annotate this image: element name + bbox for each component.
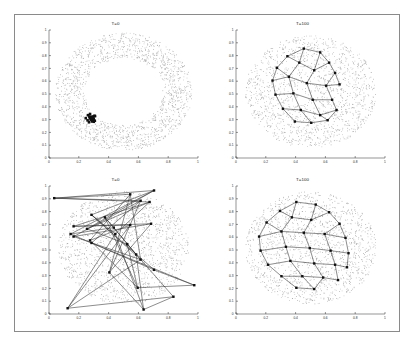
y-tick-label: 0.2 [229,131,234,135]
plot-area: 00.20.40.60.8100.10.20.30.40.50.60.70.80… [210,19,395,174]
x-tick-label: 0.8 [166,316,171,320]
y-tick-label: 0.2 [42,131,47,135]
axes: 00.20.40.60.8100.10.20.30.40.50.60.70.80… [42,28,199,164]
y-tick-label: 0.6 [229,79,234,83]
y-tick-label: 1 [45,28,47,32]
panel-bottom-left: T=0 00.20.40.60.8100.10.20.30.40.50.60.7… [23,175,208,330]
y-tick-label: 0.9 [229,197,234,201]
y-tick-label: 0.9 [42,41,47,45]
x-tick-label: 0.8 [353,160,358,164]
x-tick-label: 0.4 [293,316,298,320]
x-tick-label: 1 [197,316,199,320]
panel-bottom-right: T=100 00.20.40.60.8100.10.20.30.40.50.60… [210,175,395,330]
x-tick-label: 0.8 [166,160,171,164]
y-tick-label: 0.1 [229,299,234,303]
plot-area: 00.20.40.60.8100.10.20.30.40.50.60.70.80… [23,175,208,330]
y-tick-label: 0.7 [42,223,47,227]
x-tick-label: 0 [235,316,237,320]
y-tick-label: 0.3 [42,118,47,122]
y-tick-label: 1 [45,184,47,188]
y-tick-label: 0.4 [229,261,234,265]
x-tick-label: 0.2 [264,316,269,320]
y-tick-label: 0.1 [42,299,47,303]
x-tick-label: 0 [48,160,50,164]
y-tick-label: 0.8 [42,210,47,214]
panel-top-left: T=0 00.20.40.60.8100.10.20.30.40.50.60.7… [23,19,208,174]
y-tick-label: 0.5 [42,248,47,252]
graph-nodes [258,201,350,290]
y-tick-label: 0.5 [229,248,234,252]
y-tick-label: 0 [45,312,47,316]
plot-area: 00.20.40.60.8100.10.20.30.40.50.60.70.80… [210,175,395,330]
point-cloud [245,36,376,148]
y-tick-label: 0.4 [229,105,234,109]
y-tick-label: 0.8 [42,54,47,58]
x-tick-label: 0.4 [106,160,111,164]
axes: 00.20.40.60.8100.10.20.30.40.50.60.70.80… [229,184,386,320]
y-tick-label: 0.9 [229,41,234,45]
axes: 00.20.40.60.8100.10.20.30.40.50.60.70.80… [229,28,386,164]
graph-nodes [271,47,340,124]
y-tick-label: 0.9 [42,197,47,201]
y-tick-label: 0.1 [42,143,47,147]
y-tick-label: 0 [232,312,234,316]
plot-area: 00.20.40.60.8100.10.20.30.40.50.60.70.80… [23,19,208,174]
x-tick-label: 0.4 [293,160,298,164]
panel-top-right: T=100 00.20.40.60.8100.10.20.30.40.50.60… [210,19,395,174]
y-tick-label: 0.8 [229,54,234,58]
x-tick-label: 0.4 [106,316,111,320]
y-tick-label: 0.2 [42,287,47,291]
x-tick-label: 0.6 [136,160,141,164]
y-tick-label: 0.3 [229,274,234,278]
y-tick-label: 0.4 [42,261,47,265]
y-tick-label: 0.7 [229,223,234,227]
y-tick-label: 0 [45,156,47,160]
x-tick-label: 0.8 [353,316,358,320]
y-tick-label: 0 [232,156,234,160]
y-tick-label: 0.4 [42,105,47,109]
y-tick-label: 0.5 [229,92,234,96]
y-tick-label: 0.3 [42,274,47,278]
x-tick-label: 1 [197,160,199,164]
x-tick-label: 0.2 [264,160,269,164]
y-tick-label: 0.6 [42,235,47,239]
axes: 00.20.40.60.8100.10.20.30.40.50.60.70.80… [42,184,199,320]
x-tick-label: 1 [384,316,386,320]
y-tick-label: 0.3 [229,118,234,122]
x-tick-label: 1 [384,160,386,164]
y-tick-label: 0.2 [229,287,234,291]
x-tick-label: 0.2 [77,316,82,320]
graph-nodes [84,113,96,124]
y-tick-label: 0.7 [229,67,234,71]
x-tick-label: 0 [48,316,50,320]
x-tick-label: 0.6 [323,316,328,320]
y-tick-label: 0.1 [229,143,234,147]
x-tick-label: 0.2 [77,160,82,164]
figure-canvas: T=0 00.20.40.60.8100.10.20.30.40.50.60.7… [14,14,400,332]
y-tick-label: 1 [232,28,234,32]
x-tick-label: 0.6 [323,160,328,164]
y-tick-label: 1 [232,184,234,188]
y-tick-label: 0.6 [42,79,47,83]
x-tick-label: 0 [235,160,237,164]
y-tick-label: 0.6 [229,235,234,239]
x-tick-label: 0.6 [136,316,141,320]
point-cloud [55,33,192,150]
y-tick-label: 0.7 [42,67,47,71]
y-tick-label: 0.8 [229,210,234,214]
y-tick-label: 0.5 [42,92,47,96]
